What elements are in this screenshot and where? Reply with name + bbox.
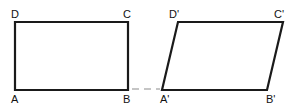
vertex-label-b: B bbox=[123, 94, 130, 105]
vertex-label-c-prime: C' bbox=[274, 9, 284, 20]
geometry-figure: D C A B D' C' A' B' bbox=[0, 0, 297, 112]
vertex-label-a-prime: A' bbox=[160, 94, 169, 105]
vertex-label-a: A bbox=[11, 94, 18, 105]
parallelogram-abcd-prime-outline bbox=[162, 22, 283, 90]
vertex-label-d: D bbox=[11, 9, 19, 20]
vertex-label-b-prime: B' bbox=[266, 94, 275, 105]
rectangle-abcd-outline bbox=[15, 22, 128, 90]
vertex-label-d-prime: D' bbox=[169, 9, 179, 20]
vertex-label-c: C bbox=[123, 9, 131, 20]
geometry-drawing bbox=[0, 0, 297, 112]
